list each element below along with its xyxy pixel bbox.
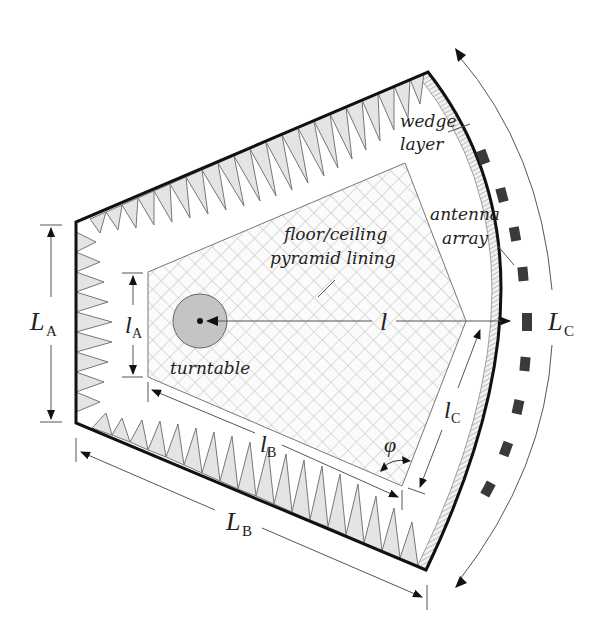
svg-text:l: l bbox=[260, 431, 267, 457]
LC-arrowhead-bottom bbox=[455, 576, 467, 588]
array-label: array bbox=[442, 228, 489, 248]
lA-label: l A bbox=[125, 312, 143, 341]
layer-label: layer bbox=[400, 134, 444, 154]
l-label: l bbox=[380, 307, 387, 336]
lC-tick-bottom bbox=[408, 488, 425, 494]
svg-text:A: A bbox=[46, 323, 57, 339]
wedge-label: wedge bbox=[400, 111, 456, 131]
turntable-label: turntable bbox=[170, 358, 250, 378]
LA-label: L A bbox=[29, 307, 57, 339]
svg-text:C: C bbox=[564, 323, 574, 339]
left-wall-absorbers bbox=[76, 232, 112, 412]
svg-text:A: A bbox=[132, 326, 143, 341]
svg-text:B: B bbox=[267, 445, 276, 460]
pyramid-lining-label: pyramid lining bbox=[270, 248, 396, 268]
svg-text:L: L bbox=[29, 307, 44, 336]
svg-text:l: l bbox=[125, 312, 132, 338]
LC-arc-lower bbox=[458, 345, 552, 582]
svg-text:L: L bbox=[225, 507, 240, 536]
LC-arrowhead-top bbox=[455, 48, 466, 62]
chamber-diagram: l L A l A l B L B l C φ bbox=[0, 0, 608, 641]
svg-text:l: l bbox=[444, 397, 451, 423]
floor-ceiling-label: floor/ceiling bbox=[282, 224, 388, 244]
lC-label: l C bbox=[444, 397, 460, 426]
lC-arrow-up bbox=[458, 330, 480, 388]
antenna-label: antenna bbox=[430, 204, 500, 224]
turntable-center bbox=[197, 318, 203, 324]
svg-text:B: B bbox=[242, 523, 252, 539]
svg-text:C: C bbox=[451, 411, 460, 426]
LC-label: L C bbox=[547, 307, 574, 339]
phi-label: φ bbox=[384, 432, 396, 457]
LB-label: L B bbox=[225, 507, 252, 539]
svg-text:L: L bbox=[547, 307, 562, 336]
lC-arrow-down bbox=[420, 430, 442, 487]
lB-label: l B bbox=[260, 431, 276, 460]
